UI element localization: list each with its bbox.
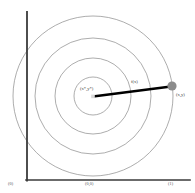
axes bbox=[26, 12, 190, 181]
center-point-label: (x*,y*) bbox=[80, 87, 93, 92]
outer-point-label: (x,y) bbox=[176, 93, 185, 98]
x-axis-tick-mid: (0,0) bbox=[85, 182, 94, 186]
x-axis-tick-origin: (0) bbox=[8, 182, 13, 186]
outer-point-marker bbox=[167, 81, 176, 90]
x-axis-tick-right: (1) bbox=[168, 182, 173, 186]
distance-vector-line bbox=[93, 87, 171, 97]
distance-vector-label: f(x) bbox=[131, 80, 138, 85]
contour-diagram-figure: (x*,y*) (x,y) f(x) (0) (0,0) (1) bbox=[0, 0, 195, 193]
diagram-canvas bbox=[0, 0, 195, 193]
center-point-marker bbox=[91, 95, 95, 99]
